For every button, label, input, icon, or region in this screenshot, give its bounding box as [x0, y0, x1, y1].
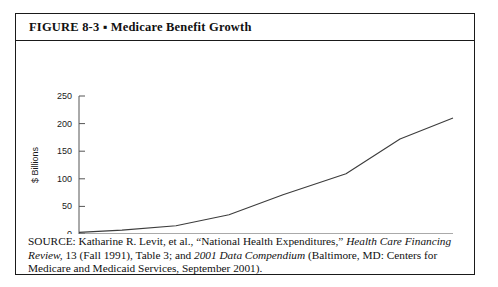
source-line-2: Review, 13 (Fall 1991), Table 3; and 200…: [28, 249, 462, 263]
series-line-medicare-benefit-payments: [79, 118, 453, 232]
source-citation-journal: Health Care Financing: [346, 235, 451, 247]
y-tick-label: 0: [67, 229, 72, 234]
y-tick-label: 100: [57, 174, 72, 184]
source-text: (Baltimore, MD: Centers for: [305, 249, 437, 261]
chart-plot-region: 0 50 100 150 200 250 $ Billions: [16, 41, 474, 234]
medicare-benefit-growth-line-chart: 0 50 100 150 200 250 $ Billions: [16, 41, 474, 234]
source-text: 13 (Fall 1991), Table 3; and: [63, 249, 194, 261]
figure-source-note: SOURCE: Katharine R. Levit, et al., “Nat…: [16, 235, 474, 276]
source-citation-compendium: 2001 Data Compendium: [194, 249, 305, 261]
source-citation-journal-cont: Review,: [28, 249, 63, 261]
y-tick-label: 250: [57, 91, 72, 101]
y-axis-title: $ Billions: [30, 146, 40, 183]
source-line-1: SOURCE: Katharine R. Levit, et al., “Nat…: [28, 235, 462, 249]
y-axis-ticks: [79, 96, 85, 234]
figure-title-bar: FIGURE 8-3 ▪ Medicare Benefit Growth: [16, 14, 474, 41]
figure-box: FIGURE 8-3 ▪ Medicare Benefit Growth 0 5…: [15, 13, 475, 275]
y-axis-tick-labels: 0 50 100 150 200 250: [57, 91, 72, 234]
y-tick-label: 50: [62, 201, 72, 211]
y-tick-label: 200: [57, 119, 72, 129]
y-tick-label: 150: [57, 146, 72, 156]
source-text: SOURCE: Katharine R. Levit, et al., “Nat…: [28, 235, 346, 247]
source-line-3: Medicare and Medicaid Services, Septembe…: [28, 262, 462, 276]
figure-title: FIGURE 8-3 ▪ Medicare Benefit Growth: [29, 20, 252, 35]
